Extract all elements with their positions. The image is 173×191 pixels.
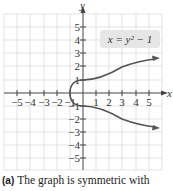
svg-text:−5: −5 xyxy=(11,96,23,108)
figure-caption: (a)The graph is symmetric with xyxy=(2,174,149,186)
svg-text:1: 1 xyxy=(93,96,99,108)
svg-text:5: 5 xyxy=(146,96,152,108)
svg-text:2: 2 xyxy=(106,96,112,108)
svg-text:−3: −3 xyxy=(68,126,80,138)
svg-text:5: 5 xyxy=(75,21,81,33)
svg-text:−4: −4 xyxy=(24,96,36,108)
caption-label: (a) xyxy=(2,175,14,186)
caption-text: The graph is symmetric with xyxy=(17,174,149,186)
svg-text:−3: −3 xyxy=(38,96,50,108)
svg-text:−2: −2 xyxy=(51,96,63,108)
svg-text:2: 2 xyxy=(75,60,81,72)
svg-text:−2: −2 xyxy=(68,113,80,125)
parabola-graph: −5−4−3−2−112345 54321−1−2−3−4−5 x y x = … xyxy=(0,0,173,175)
svg-text:4: 4 xyxy=(75,34,81,46)
y-axis-label: y xyxy=(79,0,85,11)
curve-arrow-lower-icon xyxy=(152,125,160,131)
svg-text:−4: −4 xyxy=(68,139,80,151)
svg-text:x = y² − 1: x = y² − 1 xyxy=(107,33,152,45)
svg-text:3: 3 xyxy=(119,96,125,108)
equation-label: x = y² − 1 xyxy=(100,30,160,48)
svg-text:−5: −5 xyxy=(68,152,80,164)
svg-text:4: 4 xyxy=(133,96,139,108)
x-axis-label: x xyxy=(166,87,172,99)
svg-text:3: 3 xyxy=(75,47,81,59)
curve-arrow-upper-icon xyxy=(152,56,160,62)
